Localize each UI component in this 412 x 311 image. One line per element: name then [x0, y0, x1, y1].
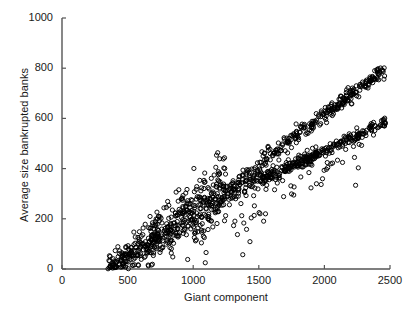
x-axis-label: Giant component — [22, 291, 412, 303]
ytick-label-0: 0 — [0, 263, 53, 274]
xtick-label-2500: 2500 — [350, 275, 412, 286]
ytick-label-1000: 1000 — [0, 12, 53, 23]
y-axis-label: Average size bankrupted banks — [18, 68, 30, 222]
data-point-group — [106, 66, 388, 271]
plot-canvas — [0, 0, 412, 311]
scatter-plot-figure: 0 200 400 600 800 1000 0 500 1000 1500 2… — [0, 0, 412, 311]
